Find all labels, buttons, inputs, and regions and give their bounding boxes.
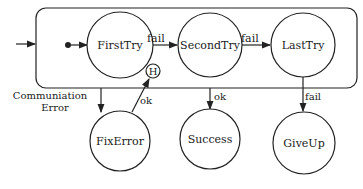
statechart-diagram: FirstTry SecondTry LastTry fail fail H C… <box>0 0 363 189</box>
state-label: LastTry <box>282 39 326 52</box>
transition-label: fail <box>147 32 165 45</box>
transition-label: ok <box>214 91 227 102</box>
state-firsttry[interactable]: FirstTry <box>87 12 153 78</box>
transition-label: fail <box>305 91 321 102</box>
state-giveup[interactable]: GiveUp <box>273 112 335 174</box>
state-label: FirstTry <box>97 39 143 52</box>
svg-text:H: H <box>149 66 158 77</box>
transition-label: Communiation <box>13 90 88 101</box>
state-label: GiveUp <box>283 137 324 150</box>
state-lasttry[interactable]: LastTry <box>271 13 335 77</box>
state-label: Success <box>188 133 233 146</box>
transition-label: Error <box>41 102 69 113</box>
state-success[interactable]: Success <box>180 109 240 169</box>
state-fixerror[interactable]: FixError <box>90 111 150 171</box>
state-secondtry[interactable]: SecondTry <box>178 13 242 77</box>
history-state: H <box>146 64 160 78</box>
state-label: FixError <box>96 135 145 148</box>
transition-label: fail <box>241 32 259 45</box>
state-label: SecondTry <box>180 39 241 52</box>
transition-label: ok <box>140 95 153 106</box>
